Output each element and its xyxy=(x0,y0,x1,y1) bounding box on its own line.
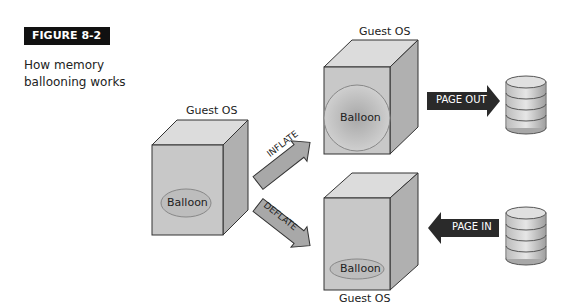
page-out-label: PAGE OUT xyxy=(436,94,487,105)
ballooning-diagram xyxy=(0,0,572,306)
vm-top-right-cube xyxy=(324,40,418,154)
vm-left-cube xyxy=(152,120,248,235)
disk-bottom-icon xyxy=(506,207,546,265)
vm-bottom-right-balloon-label: Balloon xyxy=(340,262,381,275)
vm-top-right-balloon-label: Balloon xyxy=(340,111,381,124)
page-in-label: PAGE IN xyxy=(452,221,492,232)
vm-left-label: Guest OS xyxy=(186,104,237,117)
vm-left-balloon-label: Balloon xyxy=(167,196,208,209)
vm-bottom-right-label: Guest OS xyxy=(339,292,390,305)
disk-top-icon xyxy=(506,76,546,134)
vm-top-right-label: Guest OS xyxy=(359,25,410,38)
